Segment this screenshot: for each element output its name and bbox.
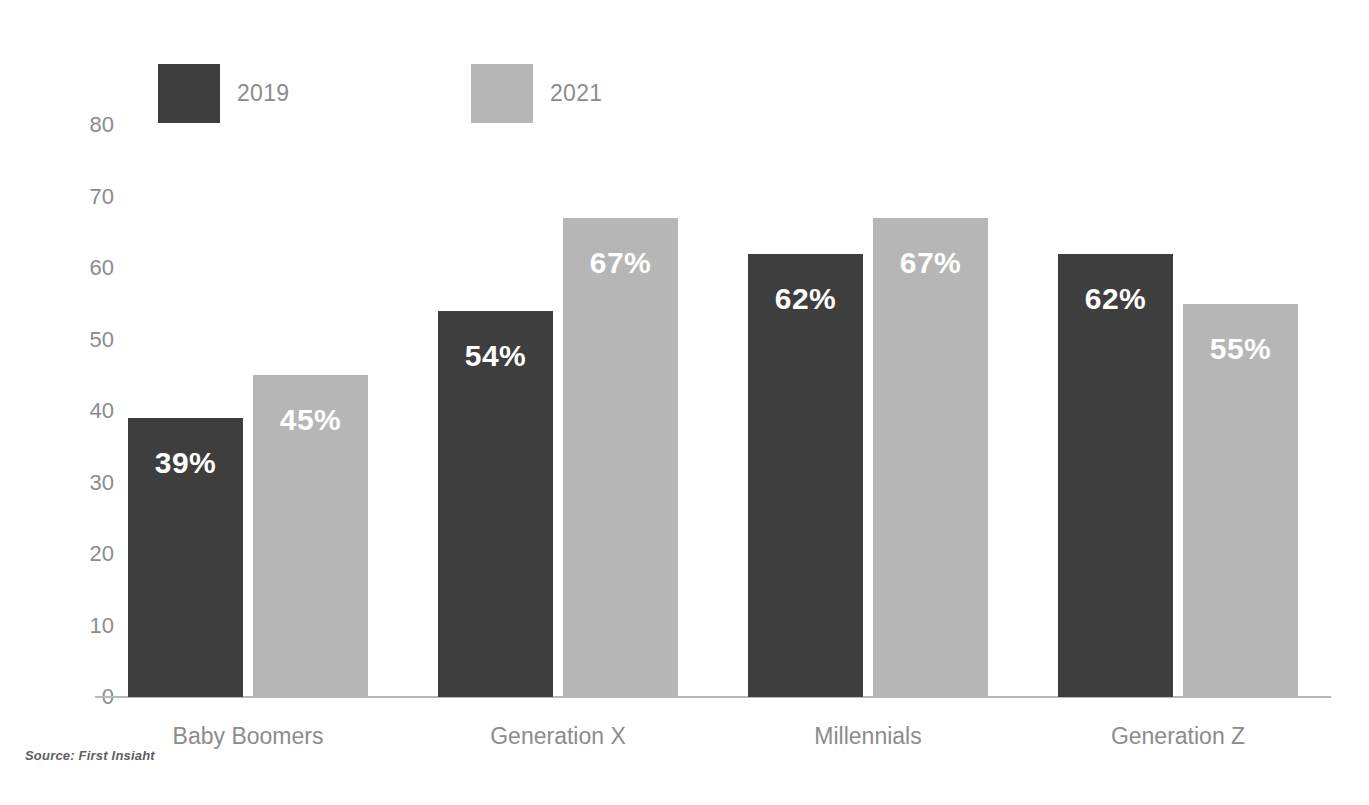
bar-value-label: 39%: [128, 446, 243, 480]
plot-area: 39%45%Baby Boomers54%67%Generation X62%6…: [0, 0, 1369, 805]
bar[interactable]: 67%: [563, 218, 678, 697]
bar[interactable]: 45%: [253, 375, 368, 697]
x-axis-category-label: Baby Boomers: [128, 723, 368, 750]
bar[interactable]: 62%: [748, 254, 863, 697]
x-axis-category-label: Generation Z: [1058, 723, 1298, 750]
bar[interactable]: 62%: [1058, 254, 1173, 697]
bar[interactable]: 67%: [873, 218, 988, 697]
bar[interactable]: 55%: [1183, 304, 1298, 697]
bar-value-label: 62%: [1058, 282, 1173, 316]
bar[interactable]: 39%: [128, 418, 243, 697]
bar-value-label: 55%: [1183, 332, 1298, 366]
bar-value-label: 67%: [563, 246, 678, 280]
bar-value-label: 45%: [253, 403, 368, 437]
x-axis-category-label: Generation X: [438, 723, 678, 750]
bar-value-label: 54%: [438, 339, 553, 373]
bar[interactable]: 54%: [438, 311, 553, 697]
x-axis-category-label: Millennials: [748, 723, 988, 750]
source-note: Source: First Insiaht: [25, 748, 155, 763]
bar-value-label: 67%: [873, 246, 988, 280]
bar-value-label: 62%: [748, 282, 863, 316]
bar-chart: 2019 2021 80706050403020100 39%45%Baby B…: [0, 0, 1369, 805]
